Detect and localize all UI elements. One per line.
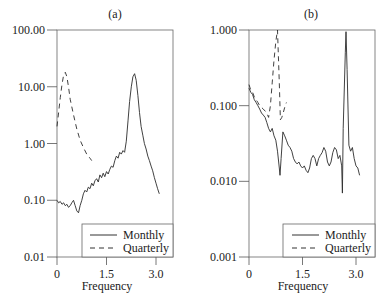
series-quarterly xyxy=(249,30,286,120)
panel-b-legend-quarterly: Quarterly xyxy=(325,241,371,255)
panel-a-title: (a) xyxy=(108,7,121,21)
series-monthly xyxy=(249,32,360,193)
series-quarterly xyxy=(57,72,92,160)
y-tick-label: 1.000 xyxy=(210,23,237,37)
panel-a-legend-quarterly: Quarterly xyxy=(123,241,169,255)
y-tick-label: 0.01 xyxy=(24,250,45,264)
x-tick-label: 0 xyxy=(246,267,252,281)
series-monthly xyxy=(57,74,159,213)
panel-a-frame xyxy=(57,30,173,257)
panel-b: (b) 1.0000.1000.0100.001 01.53.0 Frequen… xyxy=(210,7,375,293)
x-tick-label: 3.0 xyxy=(349,267,364,281)
panel-b-y-axis: 1.0000.1000.0100.001 xyxy=(210,23,249,264)
y-tick-label: 0.100 xyxy=(210,99,237,113)
panel-a-legend: Monthly Quarterly xyxy=(82,224,173,257)
y-tick-label: 0.010 xyxy=(210,174,237,188)
panel-b-x-axis-title: Frequency xyxy=(278,279,329,293)
panel-b-title: (b) xyxy=(304,7,318,21)
panel-a-y-axis: 100.0010.001.000.100.01 xyxy=(12,23,57,264)
panel-a-legend-monthly: Monthly xyxy=(123,228,164,242)
panel-b-legend: Monthly Quarterly xyxy=(283,224,375,257)
spectrum-figure: (a) 100.0010.001.000.100.01 01.53.0 Freq… xyxy=(0,0,387,305)
y-tick-label: 1.00 xyxy=(24,137,45,151)
y-tick-label: 0.001 xyxy=(210,250,237,264)
panel-b-series xyxy=(249,30,360,193)
y-tick-label: 0.10 xyxy=(24,193,45,207)
panel-b-frame xyxy=(249,30,375,257)
x-tick-label: 3.0 xyxy=(149,267,164,281)
panel-a-series xyxy=(57,72,159,213)
panel-b-legend-monthly: Monthly xyxy=(325,228,366,242)
panel-a-x-axis: 01.53.0 xyxy=(54,257,164,281)
panel-a: (a) 100.0010.001.000.100.01 01.53.0 Freq… xyxy=(12,7,173,293)
y-tick-label: 10.00 xyxy=(18,80,45,94)
y-tick-label: 100.00 xyxy=(12,23,45,37)
panel-a-x-axis-title: Frequency xyxy=(82,279,133,293)
panel-b-x-axis: 01.53.0 xyxy=(246,257,364,281)
x-tick-label: 0 xyxy=(54,267,60,281)
